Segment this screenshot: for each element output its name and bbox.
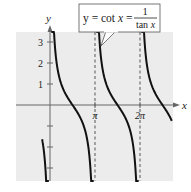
y-axis-label: y — [45, 12, 51, 24]
x-axis-arrow-icon — [173, 103, 180, 108]
equation-lhs: y = cot x = — [83, 12, 132, 25]
equation-numerator: 1 — [142, 6, 147, 17]
y-tick-label: 2 — [38, 58, 43, 69]
x-axis-label: x — [181, 99, 187, 111]
equation-denominator: tan x — [136, 19, 156, 30]
y-tick-label: 1 — [38, 79, 43, 90]
cotangent-graph: x y 123 π2π y = cot x = 1 tan x — [0, 0, 191, 192]
x-tick-label: 2π — [135, 110, 146, 121]
y-axis-arrow-icon — [48, 25, 53, 32]
y-tick-label: 3 — [38, 37, 43, 48]
